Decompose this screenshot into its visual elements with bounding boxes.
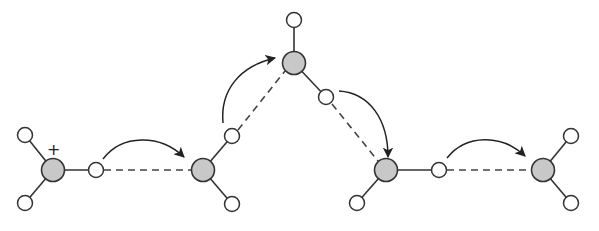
hydrogen-atom — [564, 196, 579, 211]
partial-bonds — [104, 71, 532, 170]
hydrogen-atom — [18, 128, 33, 143]
carbon-atom-c3 — [283, 52, 306, 75]
covalent-bonds — [25, 20, 571, 204]
bridging-hydrogen-atom — [432, 163, 447, 178]
positive-charge-label: + — [47, 140, 60, 159]
carbon-atom-c1 — [42, 159, 65, 182]
carbon-atoms — [42, 52, 555, 182]
shift-arrows — [103, 58, 525, 159]
carbon-atom-c5 — [532, 159, 555, 182]
curved-arrow-icon — [339, 91, 388, 157]
dashed-bond-hb2-c3 — [238, 71, 285, 130]
hydrogen-atom — [18, 196, 33, 211]
carbon-atom-c2 — [192, 159, 215, 182]
bridging-hydrogen-atom — [225, 129, 240, 144]
curved-arrow-icon — [447, 140, 525, 158]
hydrogen-atom — [350, 196, 365, 211]
hydrogen-atoms — [18, 13, 579, 212]
hydrogen-atom — [564, 129, 579, 144]
carbon-atom-c4 — [375, 159, 398, 182]
bridging-hydrogen-atom — [319, 90, 334, 105]
hydride-shift-diagram: + — [0, 0, 599, 231]
hydrogen-atom — [287, 13, 302, 28]
curved-arrow-icon — [103, 140, 184, 159]
bridging-hydrogen-atom — [89, 163, 104, 178]
hydrogen-atom — [225, 197, 240, 212]
curved-arrow-icon — [223, 58, 275, 123]
dashed-bond-hb3-c4 — [332, 104, 378, 161]
